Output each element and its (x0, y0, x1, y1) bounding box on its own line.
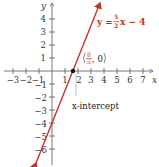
y-tick-label: −3 (34, 106, 47, 116)
point-denominator: 5 (87, 58, 91, 65)
x-intercept-point (71, 69, 75, 73)
y-tick-label: 3 (41, 27, 46, 37)
x-tick-label: 7 (140, 75, 145, 85)
y-tick-label: −2 (34, 93, 47, 103)
x-tick-label: 2 (76, 75, 81, 85)
y-tick-label: 2 (41, 40, 46, 50)
point-suffix: , 0 (92, 54, 103, 64)
x-tick-label: 5 (114, 75, 119, 85)
equation-prefix: y = (96, 17, 113, 27)
x-axis-label: x (152, 75, 157, 85)
point-numerator: 8 (87, 51, 91, 58)
x-tick-label: 4 (101, 75, 106, 85)
equation-numerator: 5 (114, 13, 118, 20)
equation-denominator: 2 (114, 22, 118, 29)
graph: −3 −2 −1 1 2 3 4 5 6 7 4 3 2 1 −1 −2 −3 … (0, 0, 159, 167)
x-tick-label: −3 (7, 75, 20, 85)
y-tick-label: 4 (41, 14, 46, 24)
x-tick-label: 6 (127, 75, 132, 85)
point-label: 8 5 , 0 (84, 51, 106, 65)
x-intercept-label: x-intercept (72, 101, 119, 111)
y-tick-label: 1 (41, 53, 46, 63)
x-tick-label: 3 (88, 75, 93, 85)
x-tick-label: 1 (62, 75, 67, 85)
y-axis-label: y (40, 1, 47, 11)
equation-suffix: x − 4 (120, 17, 145, 27)
y-tick-labels: 4 3 2 1 −1 −2 −3 −4 −5 −6 (34, 14, 47, 155)
x-tick-label: −2 (20, 75, 33, 85)
y-tick-label: −4 (34, 119, 47, 129)
equation-label: y = 5 2 x − 4 (96, 13, 145, 29)
y-tick-label: −1 (34, 80, 47, 90)
